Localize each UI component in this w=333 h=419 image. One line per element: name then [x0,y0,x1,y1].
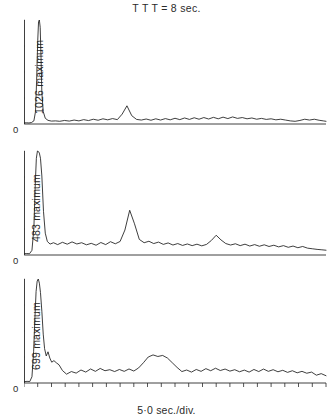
panel-1026: 1026 maximum 0 [0,14,333,139]
trace-plot-3 [24,273,333,395]
y-axis-zero-label-panel-1: 0 [13,124,18,135]
y-axis-zero-label-panel-3: 0 [13,383,18,394]
x-axis-label: 5·0 sec./div. [0,404,333,416]
data-trace [24,20,326,123]
trace-plot-1 [24,14,333,136]
figure-title: T T T = 8 sec. [0,2,333,14]
figure-container: T T T = 8 sec. 1026 maximum 0 483 maximu… [0,0,333,419]
panel-483: 483 maximum 0 [0,145,333,270]
data-trace [24,279,326,382]
panel-699: 699 maximum 0 [0,273,333,398]
data-trace [24,151,326,254]
y-axis-zero-label-panel-2: 0 [13,255,18,266]
trace-plot-2 [24,145,333,267]
